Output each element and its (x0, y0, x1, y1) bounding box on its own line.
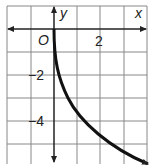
y-axis-label: y (60, 6, 67, 20)
x-axis-label: x (135, 6, 142, 20)
coordinate-plane (0, 0, 152, 165)
x-tick-2: 2 (95, 34, 103, 48)
y-tick-neg4: −4 (28, 114, 44, 128)
y-tick-neg2: −2 (28, 68, 44, 82)
origin-label: O (38, 33, 49, 47)
